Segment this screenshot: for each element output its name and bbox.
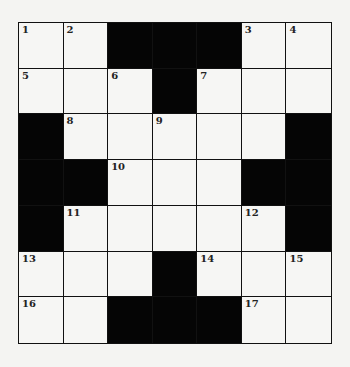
clue-number: 16 [22, 299, 36, 309]
crossword-cell[interactable] [286, 69, 331, 115]
crossword-cell[interactable] [108, 252, 153, 298]
crossword-cell[interactable] [242, 252, 287, 298]
clue-number: 14 [200, 254, 214, 264]
clue-number: 7 [200, 71, 207, 81]
crossword-cell[interactable]: 4 [286, 23, 331, 69]
clue-number: 5 [22, 71, 29, 81]
crossword-cell[interactable] [64, 252, 109, 298]
black-square [242, 160, 287, 206]
black-square [19, 114, 64, 160]
clue-number: 17 [245, 299, 259, 309]
clue-number: 6 [111, 71, 118, 81]
black-square [153, 69, 198, 115]
clue-number: 12 [245, 208, 259, 218]
clue-number: 8 [67, 116, 74, 126]
black-square [108, 297, 153, 343]
crossword-cell[interactable] [64, 69, 109, 115]
crossword-cell[interactable]: 17 [242, 297, 287, 343]
clue-number: 3 [245, 25, 252, 35]
crossword-cell[interactable]: 2 [64, 23, 109, 69]
black-square [19, 206, 64, 252]
crossword-cell[interactable]: 9 [153, 114, 198, 160]
clue-number: 11 [67, 208, 81, 218]
black-square [153, 252, 198, 298]
black-square [64, 160, 109, 206]
clue-number: 13 [22, 254, 36, 264]
black-square [197, 297, 242, 343]
crossword-cell[interactable]: 8 [64, 114, 109, 160]
crossword-cell[interactable] [197, 160, 242, 206]
crossword-cell[interactable]: 14 [197, 252, 242, 298]
crossword-cell[interactable]: 15 [286, 252, 331, 298]
crossword-cell[interactable] [108, 206, 153, 252]
black-square [19, 160, 64, 206]
crossword-cell[interactable]: 6 [108, 69, 153, 115]
black-square [108, 23, 153, 69]
crossword-cell[interactable]: 10 [108, 160, 153, 206]
crossword-cell[interactable] [242, 69, 287, 115]
black-square [153, 297, 198, 343]
clue-number: 9 [156, 116, 163, 126]
crossword-cell[interactable]: 3 [242, 23, 287, 69]
black-square [286, 160, 331, 206]
clue-number: 15 [289, 254, 303, 264]
crossword-cell[interactable]: 5 [19, 69, 64, 115]
crossword-cell[interactable]: 1 [19, 23, 64, 69]
crossword-cell[interactable]: 7 [197, 69, 242, 115]
crossword-cell[interactable]: 11 [64, 206, 109, 252]
crossword-cell[interactable] [286, 297, 331, 343]
black-square [286, 206, 331, 252]
clue-number: 1 [22, 25, 29, 35]
crossword-cell[interactable] [197, 114, 242, 160]
clue-number: 2 [67, 25, 74, 35]
crossword-cell[interactable] [108, 114, 153, 160]
crossword-cell[interactable] [197, 206, 242, 252]
clue-number: 4 [289, 25, 296, 35]
crossword-cell[interactable]: 13 [19, 252, 64, 298]
crossword-cell[interactable]: 12 [242, 206, 287, 252]
crossword-cell[interactable]: 16 [19, 297, 64, 343]
crossword-cell[interactable] [64, 297, 109, 343]
black-square [197, 23, 242, 69]
crossword-grid: 1234567891011121314151617 [18, 22, 332, 344]
black-square [286, 114, 331, 160]
crossword-cell[interactable] [153, 206, 198, 252]
clue-number: 10 [111, 162, 125, 172]
crossword-cell[interactable] [242, 114, 287, 160]
black-square [153, 23, 198, 69]
crossword-cell[interactable] [153, 160, 198, 206]
